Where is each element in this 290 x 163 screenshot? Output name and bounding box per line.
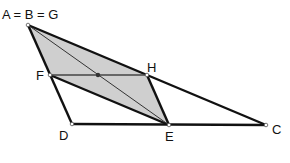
midpoint-dot [96, 73, 100, 77]
point-E [167, 123, 171, 127]
label-H: H [147, 60, 156, 75]
geometry-diagram: A = B = G F H D E C [0, 0, 290, 163]
point-A [26, 23, 30, 27]
label-E: E [165, 129, 174, 144]
label-F: F [36, 68, 44, 83]
point-F [48, 73, 52, 77]
label-A-B-G: A = B = G [2, 7, 58, 22]
point-C [264, 123, 268, 127]
label-C: C [272, 122, 281, 137]
point-D [70, 122, 74, 126]
label-D: D [59, 128, 68, 143]
